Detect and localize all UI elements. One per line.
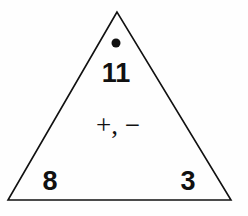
operations-label: +, − xyxy=(96,110,140,140)
top-number: 11 xyxy=(102,58,131,88)
fact-triangle-diagram: 11 +, − 8 3 xyxy=(0,0,248,216)
triangle-canvas: 11 +, − 8 3 xyxy=(0,0,248,216)
top-dot-marker xyxy=(112,39,121,48)
bottom-left-number: 8 xyxy=(42,166,57,196)
bottom-right-number: 3 xyxy=(180,166,195,196)
